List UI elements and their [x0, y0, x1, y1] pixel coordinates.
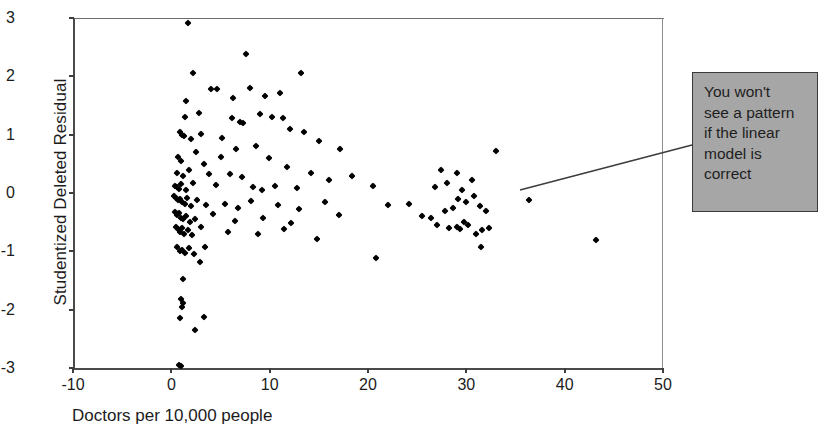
callout-line-2: see a pattern: [704, 103, 817, 124]
data-point: [188, 231, 195, 238]
data-point: [261, 93, 268, 100]
data-point: [465, 222, 472, 229]
data-point: [406, 200, 413, 207]
data-point: [256, 111, 263, 118]
x-tick-mark: [367, 368, 369, 373]
data-point: [280, 115, 287, 122]
callout-line-4: model is: [704, 144, 817, 165]
data-point: [492, 147, 499, 154]
data-point: [313, 235, 320, 242]
data-point: [225, 228, 232, 235]
data-point: [258, 186, 265, 193]
data-point: [298, 69, 305, 76]
data-point: [337, 146, 344, 153]
data-point: [177, 315, 184, 322]
data-point: [195, 109, 202, 116]
x-tick-mark: [662, 368, 664, 373]
data-point: [469, 177, 476, 184]
data-point: [419, 213, 426, 220]
axis-top-spine: [73, 18, 664, 19]
data-point: [271, 182, 278, 189]
data-point: [259, 214, 266, 221]
data-point: [431, 184, 438, 191]
data-point: [526, 196, 533, 203]
data-point: [212, 181, 219, 188]
data-point: [477, 202, 484, 209]
data-point: [485, 224, 492, 231]
data-point: [196, 258, 203, 265]
data-point: [246, 84, 253, 91]
data-point: [201, 243, 208, 250]
x-tick-mark: [170, 368, 172, 373]
data-point: [274, 201, 281, 208]
data-point: [229, 115, 236, 122]
y-tick-label: -2: [0, 302, 15, 318]
data-point: [335, 212, 342, 219]
callout-line-5: correct: [704, 164, 817, 185]
data-point: [384, 201, 391, 208]
callout-box: You won't see a pattern if the linear mo…: [692, 72, 818, 212]
data-point: [180, 276, 187, 283]
data-point: [441, 207, 448, 214]
data-point: [185, 166, 192, 173]
data-point: [369, 182, 376, 189]
data-point: [473, 230, 480, 237]
data-point: [187, 135, 194, 142]
x-tick-mark: [269, 368, 271, 373]
data-point: [254, 230, 261, 237]
axis-right-spine: [662, 18, 663, 369]
y-tick-mark: [69, 250, 74, 252]
data-point: [455, 195, 462, 202]
data-point: [427, 214, 434, 221]
data-point: [325, 177, 332, 184]
data-point: [187, 202, 194, 209]
x-tick-label: 30: [436, 377, 496, 393]
callout-line-1: You won't: [704, 82, 817, 103]
data-point: [191, 327, 198, 334]
data-point: [200, 313, 207, 320]
data-point: [197, 223, 204, 230]
data-point: [276, 89, 283, 96]
data-point: [471, 192, 478, 199]
data-point: [193, 196, 200, 203]
data-point: [294, 185, 301, 192]
data-point: [189, 179, 196, 186]
data-point: [372, 255, 379, 262]
x-tick-label: -10: [43, 377, 103, 393]
data-point: [482, 207, 489, 214]
y-tick-label: 2: [0, 68, 15, 84]
data-point: [202, 201, 209, 208]
y-tick-mark: [69, 192, 74, 194]
data-point: [230, 94, 237, 101]
data-point: [205, 171, 212, 178]
y-tick-mark: [69, 134, 74, 136]
data-point: [284, 163, 291, 170]
data-point: [219, 134, 226, 141]
x-tick-label: 20: [338, 377, 398, 393]
data-point: [189, 70, 196, 77]
x-axis-label: Doctors per 10,000 people: [72, 406, 272, 426]
data-point: [185, 19, 192, 26]
data-point: [321, 199, 328, 206]
data-point: [190, 251, 197, 258]
x-tick-label: 10: [240, 377, 300, 393]
data-point: [453, 169, 460, 176]
data-point: [200, 160, 207, 167]
data-point: [180, 172, 187, 179]
data-point: [197, 130, 204, 137]
data-point: [252, 143, 259, 150]
y-tick-label: 3: [0, 10, 15, 26]
y-tick-label: -1: [0, 243, 15, 259]
y-tick-label: 1: [0, 127, 15, 143]
y-tick-mark: [69, 309, 74, 311]
x-tick-label: 40: [535, 377, 595, 393]
data-point: [213, 86, 220, 93]
data-point: [178, 157, 185, 164]
data-point: [443, 179, 450, 186]
data-point: [301, 128, 308, 135]
data-point: [281, 226, 288, 233]
data-point: [593, 236, 600, 243]
data-point: [192, 149, 199, 156]
data-point: [265, 154, 272, 161]
data-point: [233, 146, 240, 153]
